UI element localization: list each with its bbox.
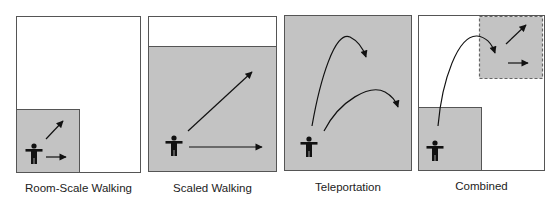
- panel-teleportation: [285, 16, 412, 171]
- tracked-area: [17, 110, 80, 173]
- caption-teleportation: Teleportation: [284, 181, 412, 193]
- caption-room-scale: Room-Scale Walking: [16, 182, 141, 194]
- panel-scaled-walking: [149, 17, 277, 172]
- teleported-area: [480, 17, 543, 79]
- tracked-area: [419, 108, 482, 171]
- panel-room-scale: [17, 17, 141, 173]
- panel-combined: [419, 16, 545, 171]
- caption-scaled-walking: Scaled Walking: [148, 182, 277, 194]
- tracked-area: [285, 16, 412, 171]
- caption-combined: Combined: [418, 180, 545, 192]
